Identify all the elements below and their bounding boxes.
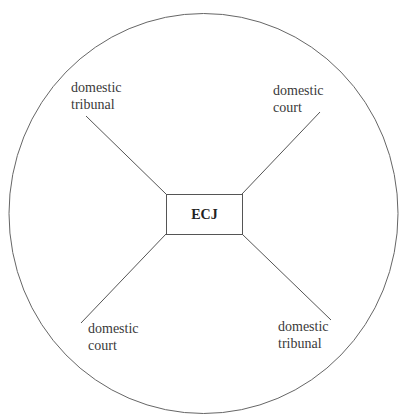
ecj-label: ECJ bbox=[191, 207, 217, 223]
node-line1: domestic bbox=[71, 79, 122, 96]
node-bottom-left: domestic court bbox=[88, 320, 139, 354]
connector-bottom-left bbox=[81, 234, 166, 323]
connector-top-right bbox=[242, 112, 320, 194]
connector-top-left bbox=[86, 116, 166, 194]
node-line2: tribunal bbox=[278, 335, 329, 352]
node-line1: domestic bbox=[273, 82, 324, 99]
node-top-right: domestic court bbox=[273, 82, 324, 116]
node-line2: court bbox=[88, 337, 139, 354]
node-line1: domestic bbox=[88, 320, 139, 337]
node-line2: court bbox=[273, 99, 324, 116]
node-top-left: domestic tribunal bbox=[71, 79, 122, 113]
node-bottom-right: domestic tribunal bbox=[278, 318, 329, 352]
node-line2: tribunal bbox=[71, 96, 122, 113]
node-line1: domestic bbox=[278, 318, 329, 335]
connector-bottom-right bbox=[242, 234, 331, 320]
ecj-box: ECJ bbox=[166, 194, 243, 235]
